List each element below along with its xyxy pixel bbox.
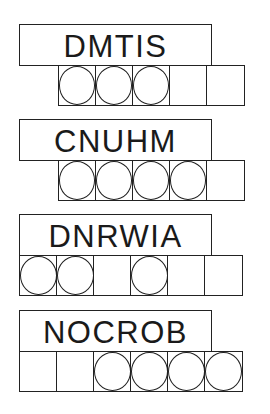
answer-cell[interactable]: [169, 160, 208, 201]
answer-cell[interactable]: [58, 160, 97, 201]
answer-cell[interactable]: [95, 160, 134, 201]
answer-cell[interactable]: [204, 351, 243, 392]
answer-cell[interactable]: [19, 351, 58, 392]
puzzle-1: DMTIS: [19, 24, 251, 106]
scrambled-word-box: DMTIS: [19, 24, 212, 66]
circled-letter-marker: [205, 352, 242, 391]
scrambled-word-box: CNUHM: [19, 119, 212, 161]
answer-cell[interactable]: [56, 351, 95, 392]
answer-cells: [19, 351, 243, 392]
answer-cells: [58, 160, 245, 201]
scrambled-word-box: NOCROB: [19, 310, 212, 352]
circled-letter-marker: [57, 256, 94, 295]
answer-cell[interactable]: [130, 351, 169, 392]
answer-cell[interactable]: [167, 351, 206, 392]
answer-cell[interactable]: [19, 255, 58, 296]
answer-cell[interactable]: [95, 65, 134, 106]
answer-cells: [19, 255, 243, 296]
circled-letter-marker: [133, 161, 170, 200]
puzzle-4: NOCROB: [19, 310, 251, 392]
circled-letter-marker: [96, 161, 133, 200]
puzzle-2: CNUHM: [19, 119, 251, 201]
circled-letter-marker: [131, 256, 168, 295]
answer-cell[interactable]: [204, 255, 243, 296]
answer-cell[interactable]: [93, 255, 132, 296]
circled-letter-marker: [96, 66, 133, 105]
answer-cell[interactable]: [93, 351, 132, 392]
answer-cell[interactable]: [167, 255, 206, 296]
answer-cell[interactable]: [132, 160, 171, 201]
circled-letter-marker: [59, 66, 96, 105]
scrambled-word-box: DNRWIA: [19, 214, 212, 256]
answer-cell[interactable]: [169, 65, 208, 106]
circled-letter-marker: [94, 352, 131, 391]
answer-cell[interactable]: [130, 255, 169, 296]
circled-letter-marker: [168, 352, 205, 391]
scrambled-word: DNRWIA: [48, 219, 182, 252]
circled-letter-marker: [20, 256, 57, 295]
answer-cell[interactable]: [58, 65, 97, 106]
scrambled-word: NOCROB: [43, 315, 188, 348]
scrambled-word: DMTIS: [64, 29, 168, 62]
scrambled-word: CNUHM: [54, 124, 177, 157]
circled-letter-marker: [59, 161, 96, 200]
circled-letter-marker: [170, 161, 207, 200]
circled-letter-marker: [133, 66, 170, 105]
answer-cell[interactable]: [132, 65, 171, 106]
circled-letter-marker: [131, 352, 168, 391]
answer-cell[interactable]: [56, 255, 95, 296]
answer-cell[interactable]: [206, 65, 245, 106]
answer-cell[interactable]: [206, 160, 245, 201]
puzzle-3: DNRWIA: [19, 214, 251, 296]
answer-cells: [58, 65, 245, 106]
